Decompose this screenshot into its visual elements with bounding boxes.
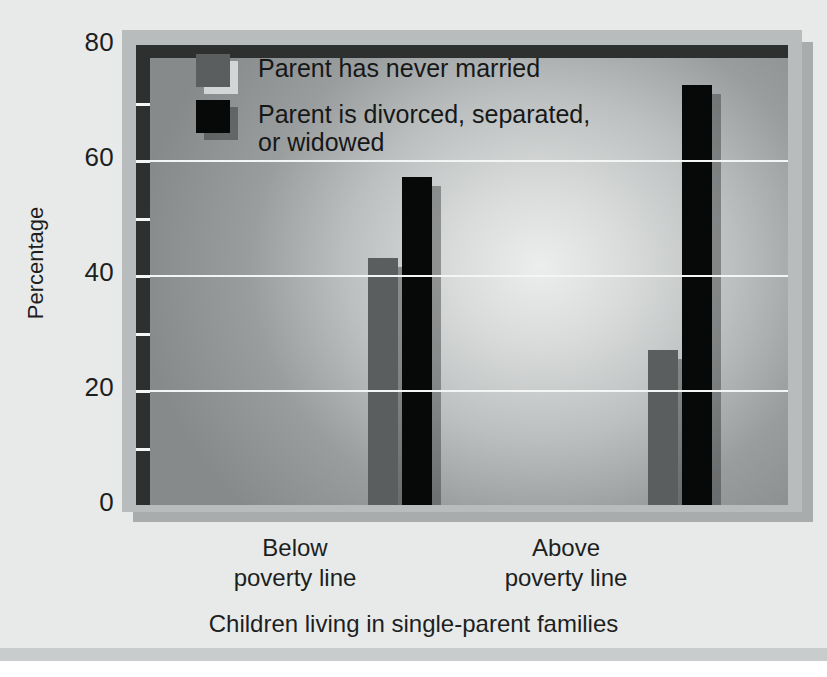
gridline — [150, 390, 788, 392]
gridline — [150, 275, 788, 277]
legend-label: Parent is divorced, separated, or widowe… — [258, 98, 590, 156]
y-axis-title: Percentage — [23, 163, 49, 363]
x-tick-label-above-poverty: Above poverty line — [436, 533, 696, 593]
footer-band-lower — [0, 661, 827, 677]
y-tick-minor — [136, 103, 150, 106]
y-tick-label: 80 — [14, 27, 114, 58]
chart-legend: Parent has never married Parent is divor… — [196, 52, 590, 162]
legend-label: Parent has never married — [258, 52, 540, 82]
gridline — [150, 160, 788, 162]
y-tick-major — [136, 275, 150, 278]
x-axis-title: Children living in single-parent familie… — [0, 610, 827, 638]
y-tick-major — [136, 390, 150, 393]
legend-swatch-never-married-icon — [196, 52, 242, 92]
legend-swatch-divorced-icon — [196, 98, 242, 138]
y-tick-minor — [136, 218, 150, 221]
legend-item: Parent has never married — [196, 52, 590, 92]
legend-item: Parent is divorced, separated, or widowe… — [196, 98, 590, 156]
y-tick-label: 20 — [14, 372, 114, 403]
y-tick-major — [136, 160, 150, 163]
x-tick-label-below-poverty: Below poverty line — [165, 533, 425, 593]
bar — [402, 177, 432, 505]
y-tick-minor — [136, 448, 150, 451]
y-tick-label: 0 — [14, 487, 114, 518]
bar — [682, 85, 712, 505]
figure-canvas: 806040200 Percentage Parent has never ma… — [0, 0, 827, 677]
bar — [648, 350, 678, 505]
bar — [368, 258, 398, 505]
footer-band — [0, 648, 827, 661]
y-tick-minor — [136, 333, 150, 336]
